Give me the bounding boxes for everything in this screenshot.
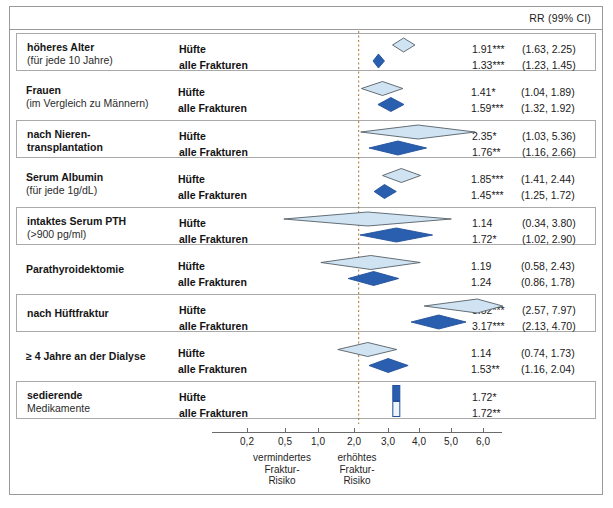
confidence-interval: (1.25, 1.72) <box>521 187 575 203</box>
row-label-secondary: transplantation <box>27 141 177 154</box>
row-values: 1.19(0.58, 2.43)1.24(0.86, 1.78) <box>471 258 575 290</box>
estimate-value: 1.41* <box>471 84 521 100</box>
estimate-value: 1.53** <box>471 361 521 377</box>
confidence-interval: (1.16, 2.04) <box>521 361 575 377</box>
row-label-primary: höheres Alter <box>27 41 177 54</box>
row-label-primary: nach Nieren- <box>27 128 177 141</box>
confidence-interval: (1.23, 1.45) <box>522 57 576 73</box>
axis-tick-label: 3,0 <box>381 436 395 447</box>
row-label-secondary: (für jede 10 Jahre) <box>27 54 177 67</box>
row-label-primary: sedierende <box>27 389 177 402</box>
confidence-interval: (1.63, 2.25) <box>522 41 576 57</box>
estimate-value: 1.19 <box>471 258 521 274</box>
row-label-primary: Parathyroidektomie <box>26 263 176 276</box>
confidence-interval: (1.04, 1.89) <box>521 84 575 100</box>
row-label: ≥ 4 Jahre an der Dialyse <box>26 350 176 363</box>
outcome-label: alle Frakturen <box>178 361 247 377</box>
row-values: 2.35*(1.03, 5.36)1.76**(1.16, 2.66) <box>472 128 576 160</box>
row-values: 1.72*1.72** <box>472 389 522 421</box>
value-line: 1.53**(1.16, 2.04) <box>471 361 575 377</box>
row-outcomes: Hüftealle Frakturen <box>179 128 248 160</box>
value-line: 1.14(0.34, 3.80) <box>472 215 576 231</box>
caption-line: Risiko <box>253 475 311 487</box>
axis-tick <box>451 428 452 432</box>
forest-row: ParathyroidektomieHüftealle Frakturen1.1… <box>16 251 596 289</box>
row-label: nach Nieren-transplantation <box>27 128 177 154</box>
row-label-primary: Frauen <box>26 84 176 97</box>
forest-row: Frauen(im Vergleich zu Männern)Hüftealle… <box>16 77 596 115</box>
outcome-label: alle Frakturen <box>178 100 247 116</box>
row-label-primary: intaktes Serum PTH <box>27 215 177 228</box>
forest-row: sedierendeMedikamenteHüftealle Frakturen… <box>16 381 596 419</box>
value-line: 1.72* <box>472 389 522 405</box>
row-values: 5.52***(2.57, 7.97)3.17***(2.13, 4.70) <box>472 302 576 334</box>
increased-risk-caption: erhöhtesFraktur-Risiko <box>338 452 377 487</box>
value-line: 1.19(0.58, 2.43) <box>471 258 575 274</box>
outcome-label: alle Frakturen <box>179 318 248 334</box>
row-values: 1.85***(1.41, 2.44)1.45***(1.25, 1.72) <box>471 171 575 203</box>
row-outcomes: Hüftealle Frakturen <box>179 41 248 73</box>
value-line: 1.85***(1.41, 2.44) <box>471 171 575 187</box>
row-values: 1.14(0.74, 1.73)1.53**(1.16, 2.04) <box>471 345 575 377</box>
outcome-label: alle Frakturen <box>178 274 247 290</box>
caption-line: vermindertes <box>253 452 311 464</box>
outcome-label: alle Frakturen <box>178 187 247 203</box>
forest-row: Serum Albumin(für jede 1g/dL)Hüftealle F… <box>16 164 596 202</box>
value-line: 1.72*(1.02, 2.90) <box>472 231 576 247</box>
row-label: höheres Alter(für jede 10 Jahre) <box>27 41 177 67</box>
row-outcomes: Hüftealle Frakturen <box>178 84 247 116</box>
value-line: 1.91***(1.63, 2.25) <box>472 41 576 57</box>
confidence-interval: (2.57, 7.97) <box>522 302 576 318</box>
estimate-value: 1.45*** <box>471 187 521 203</box>
confidence-interval: (0.58, 2.43) <box>521 258 575 274</box>
axis-tick <box>285 428 286 432</box>
row-values: 1.14(0.34, 3.80)1.72*(1.02, 2.90) <box>472 215 576 247</box>
caption-line: erhöhtes <box>338 452 377 464</box>
estimate-value: 3.17*** <box>472 318 522 334</box>
value-line: 5.52***(2.57, 7.97) <box>472 302 576 318</box>
estimate-value: 1.33*** <box>472 57 522 73</box>
row-label-primary: nach Hüftfraktur <box>27 306 177 319</box>
confidence-interval: (2.13, 4.70) <box>522 318 576 334</box>
confidence-interval: (1.16, 2.66) <box>522 144 576 160</box>
value-line: 1.33***(1.23, 1.45) <box>472 57 576 73</box>
axis-tick <box>483 428 484 432</box>
row-label: intaktes Serum PTH(>900 pg/ml) <box>27 215 177 241</box>
value-line: 1.45***(1.25, 1.72) <box>471 187 575 203</box>
outcome-label: alle Frakturen <box>179 57 248 73</box>
row-label-secondary: Medikamente <box>27 402 177 415</box>
row-outcomes: Hüftealle Frakturen <box>178 258 247 290</box>
axis-tick-label: 6,0 <box>476 436 490 447</box>
axis-tick-label: 0,2 <box>240 436 254 447</box>
axis-tick <box>247 428 248 432</box>
value-line: 1.41*(1.04, 1.89) <box>471 84 575 100</box>
forest-row: ≥ 4 Jahre an der DialyseHüftealle Fraktu… <box>16 338 596 376</box>
confidence-interval: (0.86, 1.78) <box>521 274 575 290</box>
value-line: 3.17***(2.13, 4.70) <box>472 318 576 334</box>
axis-tick-label: 2,0 <box>347 436 361 447</box>
caption-line: Fraktur- <box>253 464 311 476</box>
forest-row: nach Nieren-transplantationHüftealle Fra… <box>16 120 596 158</box>
confidence-interval: (1.32, 1.92) <box>521 100 575 116</box>
estimate-value: 1.24 <box>471 274 521 290</box>
estimate-value: 1.91*** <box>472 41 522 57</box>
row-values: 1.41*(1.04, 1.89)1.59***(1.32, 1.92) <box>471 84 575 116</box>
outcome-label: alle Frakturen <box>179 144 248 160</box>
axis-tick-label: 1,0 <box>311 436 325 447</box>
outcome-label: Hüfte <box>179 215 248 231</box>
row-outcomes: Hüftealle Frakturen <box>179 215 248 247</box>
outcome-label: alle Frakturen <box>179 405 248 421</box>
value-line: 1.14(0.74, 1.73) <box>471 345 575 361</box>
caption-line: Fraktur- <box>338 464 377 476</box>
decreased-risk-caption: vermindertesFraktur-Risiko <box>253 452 311 487</box>
confidence-interval: (1.41, 2.44) <box>521 171 575 187</box>
row-label: sedierendeMedikamente <box>27 389 177 415</box>
header-divider <box>9 29 603 30</box>
estimate-value: 1.72* <box>472 231 522 247</box>
confidence-interval: (1.02, 2.90) <box>522 231 576 247</box>
row-label-primary: Serum Albumin <box>26 171 176 184</box>
axis-tick-label: 0,5 <box>278 436 292 447</box>
confidence-interval: (1.03, 5.36) <box>522 128 576 144</box>
row-label-secondary: (im Vergleich zu Männern) <box>26 97 176 110</box>
value-line: 1.24(0.86, 1.78) <box>471 274 575 290</box>
